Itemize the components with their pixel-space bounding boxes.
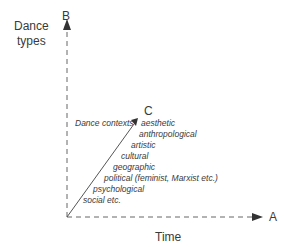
arrow-right-icon [252,213,263,221]
axis-a-letter: A [269,210,277,224]
context-item: anthropological [139,129,197,139]
context-item: geographic [113,162,155,172]
context-item: political (feminist, Marxist etc.) [104,173,218,183]
axis-b-label-line1: Dance [14,19,49,33]
axis-c-label: Dance contexts [75,118,134,128]
axis-b-label-line2: types [17,34,46,48]
context-item: psychological [93,184,144,194]
axis-b-letter: B [62,9,70,23]
context-item: aesthetic [141,118,175,128]
context-item: artistic [131,140,156,150]
axis-a-label: Time [155,230,181,244]
context-item: cultural [121,151,148,161]
axis-c-letter: C [144,104,153,118]
axis-a [67,213,263,221]
axis-b [63,19,71,217]
context-item: social etc. [83,195,121,205]
